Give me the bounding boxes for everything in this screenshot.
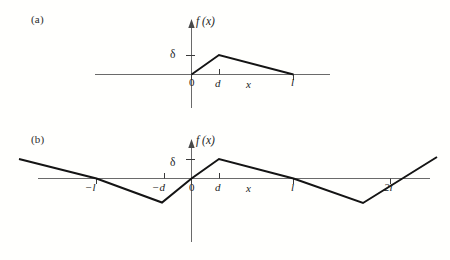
figure-canvas	[0, 0, 450, 260]
panel-b-tick-label-zero: 0	[189, 181, 195, 193]
panel-b-tick-label-l: l	[291, 181, 294, 193]
panel-a-plot	[95, 19, 330, 108]
panel-b-amplitude-label: δ	[170, 156, 175, 168]
panel-b-y-axis-arrow	[188, 139, 194, 148]
panel-a-y-axis-arrow	[188, 19, 194, 28]
panel-b-label: (b)	[31, 133, 44, 145]
panel-a-curve	[192, 55, 294, 75]
panel-b-tick-label-neg-l: −l	[85, 181, 95, 193]
panel-a-tick-label-d: d	[215, 77, 221, 89]
panel-a-yaxis-label: f (x)	[196, 15, 215, 27]
panel-b-curve	[19, 157, 437, 203]
panel-a-tick-label-zero: 0	[189, 76, 195, 88]
panel-b-yaxis-label: f (x)	[196, 134, 215, 146]
panel-b-plot	[19, 139, 437, 242]
panel-b-tick-label-d: d	[215, 181, 221, 193]
panel-b-xaxis-label: x	[246, 182, 251, 194]
panel-a-tick-label-l: l	[291, 76, 294, 88]
panel-a-xaxis-label: x	[246, 78, 251, 90]
panel-a-label: (a)	[31, 13, 44, 25]
panel-b-tick-label-2l: 2l	[384, 181, 393, 193]
panel-b-tick-label-neg-d: −d	[152, 181, 165, 193]
figure-root: (a) f (x) δ 0 d x l (b) f (x) δ −l −d 0 …	[0, 0, 450, 260]
panel-a-amplitude-label: δ	[170, 48, 175, 60]
